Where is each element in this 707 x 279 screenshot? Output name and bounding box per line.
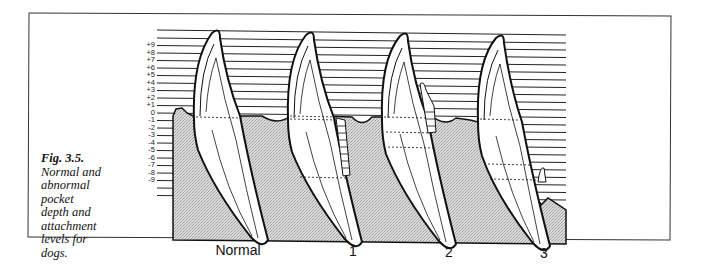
stage-label-3: 3: [540, 245, 548, 261]
stage-label-2: 2: [445, 244, 453, 260]
periodontal-diagram: +9 +8 +7 +6 +5 +4 +3 +2 +1 0 -1 -2 -3 -4…: [0, 0, 707, 279]
scale-label: -9: [148, 175, 155, 184]
bone-fill: [174, 117, 194, 239]
stage-label-normal: Normal: [215, 242, 260, 258]
stage-label-1: 1: [349, 243, 357, 259]
scale-labels: +9 +8 +7 +6 +5 +4 +3 +2 +1 0 -1 -2 -3 -4…: [146, 40, 155, 184]
